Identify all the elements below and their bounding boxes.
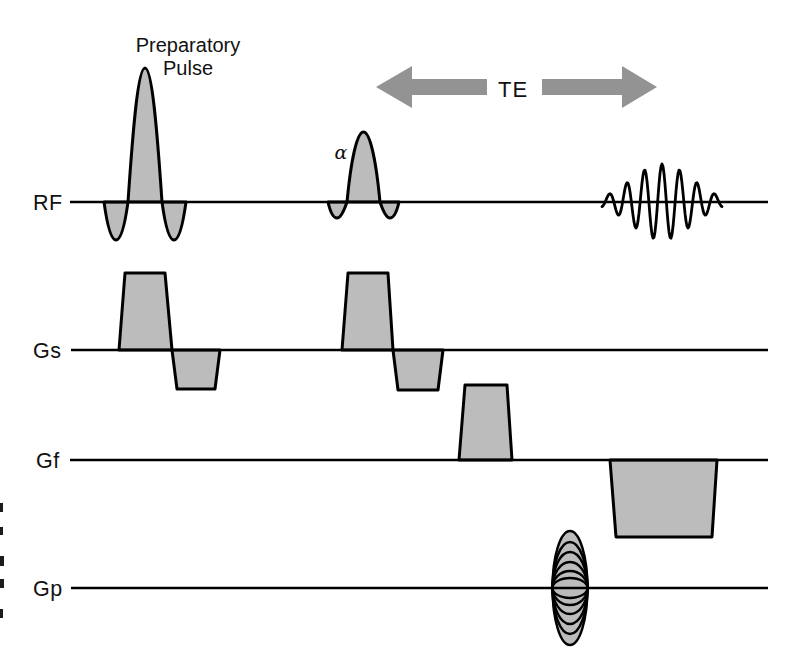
pulse-sequence-figure: Preparatory Pulse α TE RF Gs Gf Gp: [0, 0, 793, 665]
te-arrow-right: [542, 66, 657, 108]
row-label-gf: Gf: [36, 449, 60, 473]
row-label-gs: Gs: [33, 339, 61, 363]
te-arrow-left: [376, 66, 487, 108]
page-edge-ink-fragment: [0, 609, 3, 618]
page-edge-ink-fragments: [0, 503, 4, 618]
preparatory-pulse-label-line2: Pulse: [163, 57, 213, 79]
page-edge-ink-fragment: [0, 527, 3, 535]
flip-angle-alpha-label: α: [335, 141, 348, 163]
gs-rephase-pulse-2: [393, 350, 443, 390]
gs-slice-select-pulse-1: [119, 273, 172, 350]
gf-dephase-pulse: [459, 385, 512, 460]
row-label-rf: RF: [33, 191, 63, 215]
page-edge-ink-fragment: [0, 579, 4, 588]
pulse-sequence-diagram: Preparatory Pulse α TE RF Gs Gf Gp: [0, 0, 793, 665]
rf-preparatory-pulse: [104, 68, 186, 240]
gf-readout-pulse: [610, 460, 717, 537]
gs-rephase-pulse-1: [172, 350, 220, 389]
echo-time-te-label: TE: [498, 77, 528, 102]
gs-slice-select-pulse-2: [342, 273, 393, 350]
preparatory-pulse-label-line1: Preparatory: [136, 34, 241, 56]
row-label-gp: Gp: [33, 577, 63, 601]
page-edge-ink-fragment: [0, 556, 4, 566]
page-edge-ink-fragment: [0, 503, 3, 512]
